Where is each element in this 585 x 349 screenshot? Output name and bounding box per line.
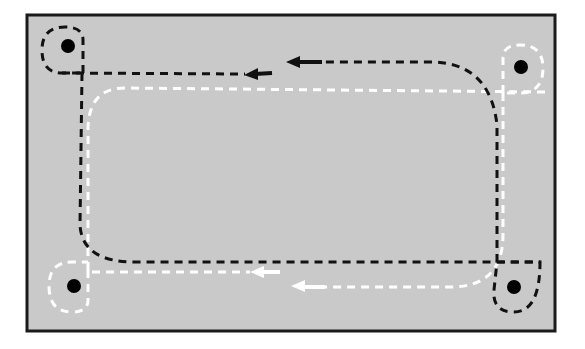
node-top-right xyxy=(514,60,528,74)
circulation-diagram xyxy=(0,0,585,349)
node-bottom-right xyxy=(507,280,521,294)
node-bottom-left xyxy=(67,279,81,293)
node-top-left xyxy=(61,39,75,53)
